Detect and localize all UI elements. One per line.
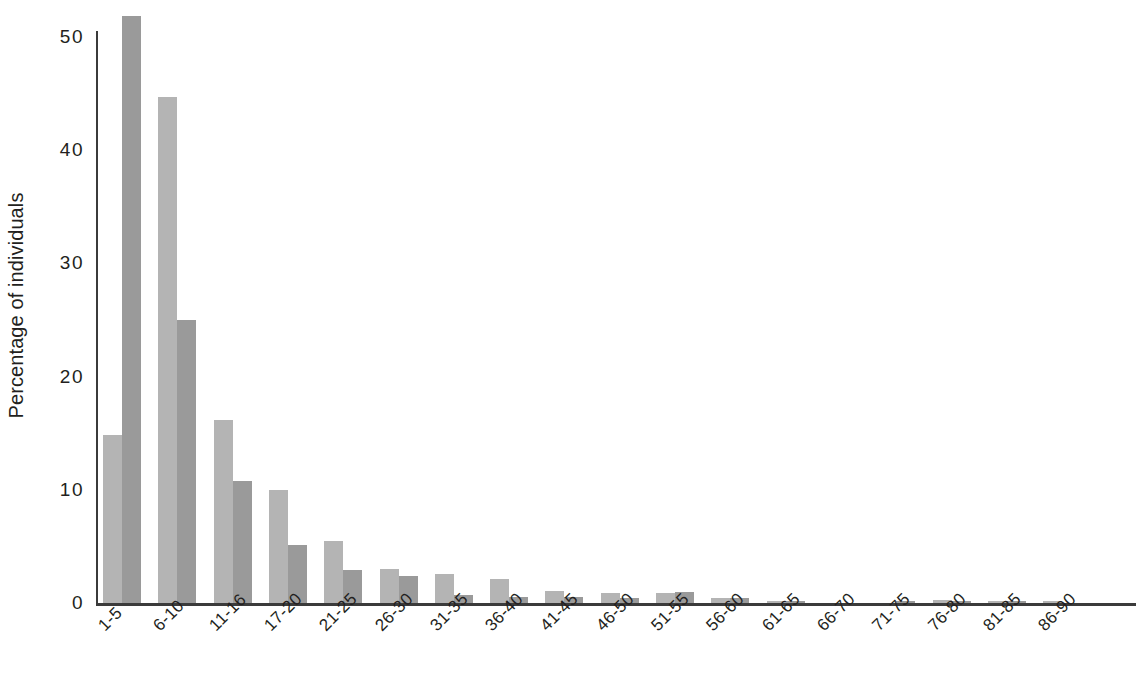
- y-tick-label: 40: [36, 140, 84, 159]
- x-tick-label: 1-5: [95, 604, 125, 634]
- y-tick-label: 30: [36, 253, 84, 272]
- bar: [158, 97, 177, 603]
- y-tick-label: 10: [36, 480, 84, 499]
- bar: [269, 490, 288, 603]
- bar: [324, 541, 343, 603]
- plot-area: [96, 0, 1136, 606]
- bar: [103, 435, 122, 603]
- y-axis-tick-labels: 01020304050: [28, 0, 84, 606]
- bar: [214, 420, 233, 603]
- y-tick-label: 20: [36, 367, 84, 386]
- bars-layer: [96, 0, 1136, 606]
- x-axis-tick-labels: 1-56-1011-1617-2021-2526-3031-3536-4041-…: [96, 606, 1136, 694]
- y-axis-title-text: Percentage of individuals: [6, 192, 29, 418]
- bar: [177, 320, 196, 603]
- y-tick-label: 0: [36, 593, 84, 612]
- bar: [233, 481, 252, 603]
- bar: [122, 16, 141, 604]
- y-tick-label: 50: [36, 27, 84, 46]
- bar-chart-figure: Percentage of individuals 01020304050 1-…: [0, 0, 1141, 694]
